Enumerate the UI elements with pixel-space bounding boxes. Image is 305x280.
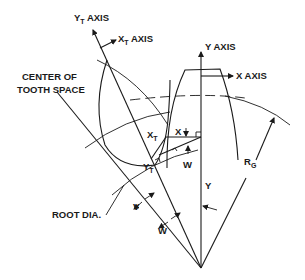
- rg-label: RG: [244, 156, 257, 169]
- y-label: Y: [205, 180, 212, 191]
- center-of-tooth-space-label-1: CENTER OF: [22, 71, 77, 82]
- angle-arrow: [203, 206, 217, 210]
- addendum-circle-arc: [97, 60, 168, 125]
- rg-radius-line-lower: [201, 178, 246, 268]
- root-dia-label: ROOT DIA.: [52, 209, 101, 220]
- tooth-space-center-line: [57, 92, 201, 268]
- right-angle-mark: [172, 148, 177, 151]
- root-dia-leader: [106, 185, 124, 215]
- y-axis-label: Y AXIS: [205, 41, 236, 52]
- xt-axis-label: XT AXIS: [118, 33, 153, 46]
- gear-tooth-outline: [167, 69, 238, 168]
- w-upper-label: W: [183, 159, 192, 170]
- center-of-tooth-space-label-2: TOOTH SPACE: [17, 84, 85, 95]
- gear-tooth-coordinate-diagram: YT AXIS XT AXIS Y AXIS X AXIS CENTER OF …: [0, 0, 305, 280]
- v-angle-arrow: [145, 193, 154, 199]
- diagram-canvas: YT AXIS XT AXIS Y AXIS X AXIS CENTER OF …: [0, 0, 305, 280]
- root-circle-arc: [112, 150, 198, 195]
- yt-axis-line: [93, 30, 201, 268]
- right-angle-mark: [196, 132, 201, 137]
- rg-radius-line-upper: [256, 118, 274, 160]
- yt-label: YT: [143, 161, 154, 174]
- w-lower-label: W: [158, 225, 167, 236]
- x-axis-label: X AXIS: [236, 70, 267, 81]
- x-label: X: [175, 126, 182, 137]
- outer-circle-arc: [225, 96, 290, 125]
- yt-axis-label: YT AXIS: [74, 12, 109, 25]
- v-label: V: [133, 201, 140, 212]
- xt-axis-arrow: [100, 40, 116, 48]
- xt-label: XT: [147, 129, 158, 142]
